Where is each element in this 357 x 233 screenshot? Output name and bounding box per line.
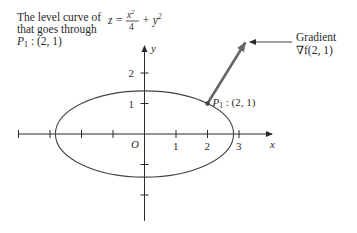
- equation-lhs: z =: [107, 14, 123, 26]
- caption-point: P1 : (2, 1): [16, 35, 62, 49]
- caption-line1: The level curve of: [17, 11, 101, 23]
- y-tick-label: 2: [129, 67, 135, 79]
- x-tick-label: 3: [236, 140, 242, 152]
- axes: 123 12 x y O: [18, 42, 275, 221]
- y-tick-labels: 12: [129, 67, 135, 110]
- equation-rhs: + y2: [142, 12, 162, 27]
- x-tick-label: 1: [173, 140, 179, 152]
- x-tick-labels: 123: [173, 140, 242, 152]
- caption: The level curve of that goes through P1 …: [16, 11, 101, 49]
- equation-numerator: x2: [126, 8, 135, 20]
- gradient-label-line2: ∇f(2, 1): [296, 44, 333, 57]
- y-tick-label: 1: [129, 98, 135, 110]
- y-axis-label: y: [150, 42, 156, 54]
- gradient-label-line1: Gradient: [296, 31, 337, 43]
- point-p1: [205, 101, 209, 105]
- gradient-vector-arrow: [208, 43, 246, 104]
- point-p1-label: P1 : (2, 1): [212, 96, 256, 110]
- equation: z = x2 4 + y2: [107, 8, 162, 32]
- x-tick-label: 2: [205, 140, 211, 152]
- level-curve-diagram: The level curve of that goes through P1 …: [0, 0, 357, 233]
- x-axis-label: x: [269, 138, 275, 150]
- origin-label: O: [131, 138, 139, 150]
- equation-denominator: 4: [129, 22, 134, 32]
